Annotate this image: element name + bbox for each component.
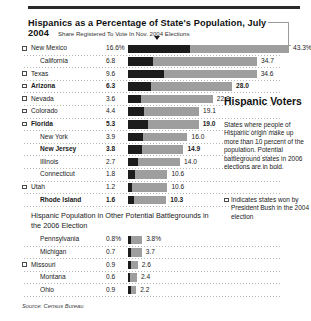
population-percent-value: 2.6 — [142, 261, 151, 268]
population-percent-value: 10.6 — [171, 170, 184, 177]
bar-group — [128, 82, 232, 91]
checkbox-icon — [22, 71, 27, 76]
registered-share-value: 6.8 — [106, 57, 115, 64]
checkbox-icon — [22, 84, 27, 89]
state-name: Nevada — [31, 95, 54, 102]
table-row: Texas9.634.6 — [22, 68, 218, 81]
bar-registered-share — [128, 133, 143, 142]
registered-share-value: 9.6 — [106, 70, 115, 77]
state-name: New York — [40, 133, 68, 140]
bar-group — [128, 261, 138, 270]
top-divider-rule — [28, 6, 300, 9]
state-name: Arizona — [31, 82, 55, 89]
state-name: Pennsylvania — [40, 235, 79, 242]
states-over-ten-percent-table: New Mexico16.6%43.3%California6.834.7Tex… — [22, 43, 218, 207]
registered-share-value: 0.6 — [106, 273, 115, 280]
bar-registered-share — [128, 170, 135, 179]
bar-group — [128, 45, 289, 54]
bar-group — [128, 158, 180, 167]
registered-share-value: 2.7 — [106, 158, 115, 165]
table-row: New York3.916.0 — [22, 131, 218, 144]
table-row: Montana0.62.4 — [22, 272, 218, 285]
bar-registered-share — [128, 236, 131, 245]
registered-share-value: 16.6% — [106, 44, 125, 51]
state-name: Florida — [31, 120, 53, 127]
state-name: Illinois — [40, 158, 58, 165]
table-row: Missouri0.92.6 — [22, 259, 218, 272]
bar-registered-share — [128, 273, 130, 282]
checkbox-icon — [22, 122, 27, 127]
bar-registered-share — [128, 107, 144, 116]
bar-registered-share — [128, 70, 164, 79]
population-percent-value: 2.2 — [140, 286, 149, 293]
table-row: Colorado4.419.1 — [22, 106, 218, 119]
table-row: Utah1.210.6 — [22, 182, 218, 195]
section2-heading: Hispanic Population in Other Potential B… — [31, 211, 211, 230]
population-percent-value: 14.9 — [187, 145, 200, 152]
sidebar-title: Hispanic Voters — [224, 96, 308, 108]
checkbox-icon — [22, 185, 27, 190]
bar-group — [128, 170, 167, 179]
registered-share-value: 3.9 — [106, 133, 115, 140]
registered-share-value: 0.7 — [106, 248, 115, 255]
population-percent-value: 34.6 — [261, 70, 274, 77]
bar-group — [128, 107, 199, 116]
bar-group — [128, 196, 166, 205]
bar-registered-share — [128, 95, 141, 104]
table-row: Pennsylvania0.8%3.8% — [22, 234, 218, 247]
population-percent-value: 3.8% — [146, 235, 161, 242]
bar-group — [128, 286, 136, 295]
population-percent-value: 10.3 — [170, 196, 183, 203]
bar-group — [128, 248, 142, 257]
population-percent-value: 28.0 — [236, 82, 249, 89]
bar-registered-share — [128, 248, 131, 257]
source-note: Source: Census Bureau — [22, 303, 84, 309]
infographic-root: Hispanics as a Percentage of State's Pop… — [0, 0, 311, 321]
bar-registered-share — [128, 286, 131, 295]
population-percent-value: 10.6 — [171, 183, 184, 190]
state-name: Montana — [40, 273, 66, 280]
registered-share-value: 1.8 — [106, 170, 115, 177]
bar-registered-share — [128, 183, 132, 192]
bar-registered-share — [128, 145, 142, 154]
bar-group — [128, 57, 257, 66]
table-row: Rhode Island1.610.3 — [22, 194, 218, 207]
table-row: Nevada3.622.8 — [22, 93, 218, 106]
row-divider — [24, 296, 280, 297]
registered-share-value: 0.9 — [106, 286, 115, 293]
bar-registered-share — [128, 261, 131, 270]
registered-share-value: 1.6 — [106, 196, 115, 203]
table-row: Florida5.319.0 — [22, 119, 218, 132]
checkbox-icon — [22, 262, 27, 267]
checkbox-icon — [22, 96, 27, 101]
bar-group — [128, 145, 183, 154]
state-name: Missouri — [31, 261, 56, 268]
registered-share-marker-icon — [154, 36, 160, 40]
state-name: Texas — [31, 70, 48, 77]
bar-registered-share — [128, 120, 148, 129]
registered-share-value: 5.3 — [106, 120, 115, 127]
checkbox-icon — [22, 109, 27, 114]
registered-share-value: 3.8 — [106, 145, 115, 152]
bar-group — [128, 70, 257, 79]
population-percent-value: 34.7 — [261, 57, 274, 64]
bar-registered-share — [128, 82, 151, 91]
table-row: Illinois2.714.0 — [22, 156, 218, 169]
table-row: Arizona6.328.0 — [22, 81, 218, 94]
state-name: Ohio — [40, 286, 54, 293]
registered-share-value: 0.8% — [106, 235, 121, 242]
table-row: California6.834.7 — [22, 56, 218, 69]
table-row: New Jersey3.814.9 — [22, 144, 218, 157]
checkbox-icon — [224, 198, 229, 203]
population-percent-value: 16.0 — [191, 133, 204, 140]
bar-group — [128, 236, 142, 245]
sidebar-description: States where people of Hispanic origin m… — [224, 121, 308, 171]
registered-share-value: 1.2 — [106, 183, 115, 190]
checkbox-icon — [22, 46, 27, 51]
table-row: Connecticut1.810.6 — [22, 169, 218, 182]
bar-registered-share — [128, 158, 138, 167]
table-row: Ohio0.92.2 — [22, 284, 218, 297]
other-battlegrounds-table: Pennsylvania0.8%3.8%Michigan0.73.7Missou… — [22, 234, 218, 297]
state-name: Colorado — [31, 107, 58, 114]
registered-share-value: 0.9 — [106, 261, 115, 268]
